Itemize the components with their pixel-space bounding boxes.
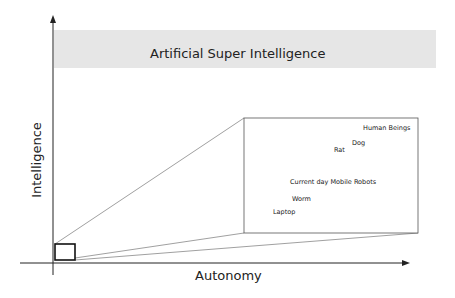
x-axis-label: Autonomy: [195, 268, 262, 283]
point-human-beings: Human Beings: [363, 125, 410, 132]
x-axis-arrow-icon: [402, 260, 410, 266]
diagram-canvas: [0, 0, 455, 298]
point-worm: Worm: [292, 196, 311, 203]
point-rat: Rat: [334, 147, 345, 154]
point-mobile-robots: Current day Mobile Robots: [290, 179, 376, 186]
zoom-box: [244, 118, 418, 233]
origin-region-box: [55, 244, 75, 260]
y-axis-label: Intelligence: [29, 122, 44, 198]
point-dog: Dog: [352, 140, 365, 147]
y-axis-arrow-icon: [50, 15, 56, 23]
point-laptop: Laptop: [273, 209, 295, 216]
